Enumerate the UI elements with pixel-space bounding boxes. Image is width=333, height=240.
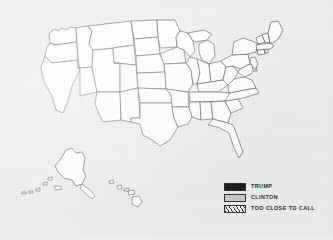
aleutian-island-5[interactable] [22,192,26,194]
state-south-dakota[interactable] [134,37,160,56]
aleutian-island-2[interactable] [43,182,47,185]
state-iowa[interactable] [160,47,186,64]
aleutian-island-4[interactable] [29,191,33,193]
hawaii-kauai[interactable] [109,180,114,184]
hawaii-big-island[interactable] [132,196,142,207]
hawaii-inset [109,180,142,207]
aleutian-island-1[interactable] [48,177,52,180]
state-oregon[interactable] [45,42,78,63]
state-florida[interactable] [208,119,243,158]
state-michigan-lower[interactable] [199,40,215,64]
legend-swatch-trump [224,183,246,191]
state-maine[interactable] [268,21,283,43]
legend-item-trump[interactable]: TRUMP [224,183,315,191]
map-legend: TRUMP CLINTON TOO CLOSE TO CALL [224,183,315,213]
legend-label-too-close-to-call: TOO CLOSE TO CALL [251,206,315,211]
state-alaska[interactable] [55,148,86,186]
alaska-kodiak[interactable] [54,186,62,190]
state-kansas[interactable] [137,72,166,89]
legend-item-too-close-to-call[interactable]: TOO CLOSE TO CALL [224,205,315,213]
hawaii-oahu[interactable] [117,185,122,189]
hawaii-molokai[interactable] [124,188,129,191]
legend-swatch-clinton [224,194,246,202]
legend-swatch-too-close-to-call [224,205,246,213]
alaska-panhandle[interactable] [80,184,95,199]
contiguous-states [41,20,283,158]
legend-item-clinton[interactable]: CLINTON [224,194,315,202]
state-arizona[interactable] [95,92,121,122]
state-missouri[interactable] [164,63,193,92]
state-california[interactable] [41,56,80,113]
state-tennessee[interactable] [189,92,230,102]
state-montana[interactable] [88,21,134,50]
state-new-york[interactable] [232,38,258,55]
state-north-dakota[interactable] [131,20,158,39]
legend-label-trump: TRUMP [251,184,272,189]
alaska-inset [22,148,95,199]
aleutian-island-3[interactable] [36,188,40,191]
state-wyoming[interactable] [113,45,136,65]
state-new-mexico[interactable] [120,88,140,122]
state-nebraska[interactable] [136,54,165,73]
hawaii-maui[interactable] [128,190,135,195]
legend-label-clinton: CLINTON [251,195,278,200]
